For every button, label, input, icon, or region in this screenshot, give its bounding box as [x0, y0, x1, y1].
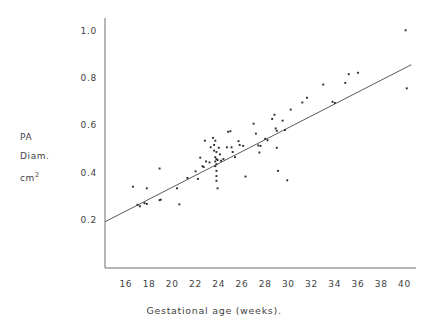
x-tick-label: 26	[233, 279, 251, 289]
data-point	[214, 165, 216, 167]
data-point	[203, 166, 205, 168]
data-point	[195, 170, 197, 172]
data-point	[216, 180, 218, 182]
data-point	[232, 151, 234, 153]
data-point	[213, 144, 215, 146]
data-point	[348, 73, 350, 75]
x-tick-label: 30	[279, 279, 297, 289]
data-point	[234, 156, 236, 158]
data-point	[282, 120, 284, 122]
data-point	[144, 202, 146, 204]
data-point	[239, 144, 241, 146]
data-point	[216, 163, 218, 165]
y-axis-unit-exponent: 2	[35, 171, 40, 179]
x-tick-label: 16	[117, 279, 135, 289]
data-point	[231, 146, 233, 148]
data-point	[260, 145, 262, 147]
regression-line	[105, 65, 411, 222]
axes-group	[105, 18, 416, 268]
data-point	[286, 179, 288, 181]
data-point	[322, 84, 324, 86]
data-point	[301, 102, 303, 104]
y-axis-title-line-2: Diam.	[20, 147, 82, 166]
data-point	[245, 176, 247, 178]
x-tick-label: 40	[395, 279, 413, 289]
data-point	[277, 170, 279, 172]
data-point	[213, 150, 215, 152]
data-point	[220, 160, 222, 162]
scatter-plot-figure: PA Diam. cm2 Gestational age (weeks). 0.…	[0, 0, 428, 329]
data-point	[219, 153, 221, 155]
data-point	[216, 175, 218, 177]
data-point	[137, 204, 139, 206]
data-point	[274, 114, 276, 116]
data-point	[332, 101, 334, 103]
x-tick-label: 36	[349, 279, 367, 289]
data-point	[222, 158, 224, 160]
data-point	[253, 123, 255, 125]
data-point	[406, 87, 408, 89]
data-point	[242, 145, 244, 147]
data-point	[264, 138, 266, 140]
x-tick-label: 22	[187, 279, 205, 289]
x-tick-label: 38	[372, 279, 390, 289]
data-point	[186, 177, 188, 179]
y-axis-title: PA Diam. cm2	[20, 128, 82, 188]
data-point	[284, 129, 286, 131]
data-point	[271, 118, 273, 120]
x-tick-label: 24	[210, 279, 228, 289]
data-point	[146, 187, 148, 189]
y-tick-label: 0.4	[71, 168, 97, 178]
x-tick-label: 28	[256, 279, 274, 289]
data-point	[210, 146, 212, 148]
data-point	[334, 102, 336, 104]
x-tick-label: 18	[140, 279, 158, 289]
data-point	[214, 140, 216, 142]
data-point	[197, 178, 199, 180]
data-point	[199, 157, 201, 159]
data-point	[209, 161, 211, 163]
data-point	[212, 137, 214, 139]
data-points-group	[132, 29, 408, 207]
data-point	[214, 156, 216, 158]
x-tick-label: 20	[163, 279, 181, 289]
data-point	[205, 161, 207, 163]
data-point	[204, 140, 206, 142]
data-point	[276, 147, 278, 149]
data-point	[306, 97, 308, 99]
data-point	[159, 168, 161, 170]
data-point	[267, 139, 269, 141]
data-point	[178, 203, 180, 205]
data-point	[217, 159, 219, 161]
data-point	[275, 127, 277, 129]
data-point	[238, 140, 240, 142]
data-point	[160, 199, 162, 201]
data-point	[258, 152, 260, 154]
data-point	[139, 205, 141, 207]
y-axis-unit: cm	[20, 173, 35, 183]
data-point	[357, 72, 359, 74]
data-point	[229, 130, 231, 132]
x-axis-title: Gestational age (weeks).	[0, 305, 428, 316]
data-point	[257, 144, 259, 146]
data-point	[255, 133, 257, 135]
data-point	[405, 29, 407, 31]
data-point	[344, 82, 346, 84]
y-tick-label: 1.0	[71, 26, 97, 36]
y-tick-label: 0.2	[71, 215, 97, 225]
y-axis-title-line-1: PA	[20, 128, 82, 147]
data-point	[216, 170, 218, 172]
data-point	[146, 203, 148, 205]
data-point	[217, 187, 219, 189]
data-point	[216, 151, 218, 153]
data-point	[176, 187, 178, 189]
x-tick-label: 34	[326, 279, 344, 289]
regression-line-segment	[105, 65, 411, 222]
data-point	[227, 131, 229, 133]
data-point	[214, 161, 216, 163]
data-point	[132, 186, 134, 188]
y-tick-label: 0.8	[71, 73, 97, 83]
data-point	[290, 109, 292, 111]
y-tick-label: 0.6	[71, 120, 97, 130]
data-point	[276, 130, 278, 132]
